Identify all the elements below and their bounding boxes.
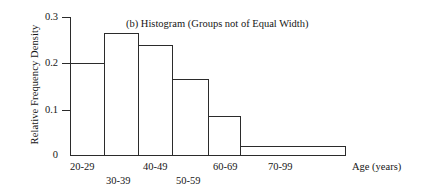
bar-40-49: [138, 45, 173, 156]
y-tick-label-0.3: 0.3: [14, 12, 58, 23]
x-tick-label-70-99: 70-99: [268, 162, 293, 173]
x-tick-label-40-49: 40-49: [143, 162, 168, 173]
y-axis-title: Relative Frequency Density: [29, 10, 40, 160]
x-tick-label-60-69: 60-69: [213, 162, 238, 173]
y-tick-label-0.1: 0.1: [14, 105, 58, 116]
y-tick-mark-0.3: [62, 17, 71, 18]
x-tick-label-30-39: 30-39: [106, 176, 131, 187]
bar-50-59: [172, 79, 209, 156]
y-tick-label-0.2: 0.2: [14, 58, 58, 69]
bar-30-39: [104, 33, 139, 156]
y-tick-label-0: 0: [14, 150, 58, 161]
histogram-figure: Relative Frequency Density (b) Histogram…: [0, 0, 431, 192]
bar-20-29: [70, 63, 105, 156]
x-tick-label-20-29: 20-29: [70, 162, 95, 173]
x-axis-title: Age (years): [352, 161, 401, 172]
bar-60-69: [208, 116, 241, 156]
bar-70-99: [240, 146, 346, 156]
chart-title: (b) Histogram (Groups not of Equal Width…: [126, 18, 309, 29]
x-tick-label-50-59: 50-59: [176, 176, 201, 187]
